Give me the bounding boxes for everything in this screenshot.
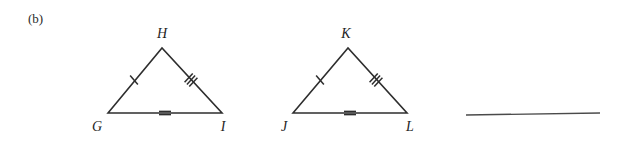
vertex-label-K: K — [340, 26, 351, 41]
vertex-label-J: J — [281, 119, 288, 134]
triangle-JKL-outline — [293, 48, 407, 113]
geometry-figure: (b) G H I J K L — [0, 0, 626, 151]
answer-blank-line — [466, 113, 600, 115]
tick-stroke — [130, 75, 138, 84]
tick-stroke — [370, 73, 378, 82]
triangle-JKL: J K L — [281, 26, 414, 134]
vertex-label-I: I — [220, 119, 227, 134]
vertex-label-L: L — [405, 119, 414, 134]
vertex-label-H: H — [156, 26, 168, 41]
triangle-GHI-tick-GH — [130, 75, 138, 84]
vertex-label-G: G — [92, 119, 102, 134]
triangle-GHI: G H I — [92, 26, 227, 134]
part-label: (b) — [28, 11, 43, 26]
triangle-GHI-outline — [108, 48, 222, 113]
figure-canvas: (b) G H I J K L — [0, 0, 626, 151]
